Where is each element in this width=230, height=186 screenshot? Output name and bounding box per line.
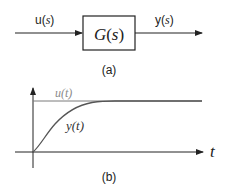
caption-a: (a) — [102, 63, 117, 77]
time-axis-label: t — [210, 142, 216, 161]
step-response-plot: t u(t) y(t) (b) — [15, 86, 216, 184]
output-signal-curve — [33, 101, 202, 152]
figure: u(s) G(s) y(s) (a) t u(t) y(t) (b) — [0, 0, 230, 186]
input-label: u(s) — [35, 13, 54, 27]
block-diagram: u(s) G(s) y(s) (a) — [15, 13, 202, 77]
output-label: y(s) — [155, 13, 174, 27]
output-signal-label: y(t) — [64, 118, 84, 133]
input-signal-label: u(t) — [55, 86, 72, 100]
transfer-function-label: G(s) — [94, 25, 124, 44]
caption-b: (b) — [102, 170, 117, 184]
